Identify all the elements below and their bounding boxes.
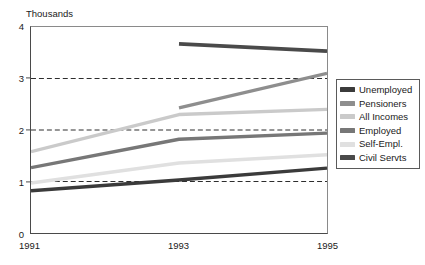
x-tick-label: 1993 [159, 240, 199, 251]
legend-swatch-icon [340, 87, 355, 92]
chart-legend: UnemployedPensionersAll IncomesEmployedS… [336, 79, 420, 169]
y-tick-label: 3 [10, 72, 24, 83]
plot-area [30, 26, 328, 234]
series-line [31, 168, 327, 191]
legend-item[interactable]: Employed [340, 124, 416, 138]
legend-item[interactable]: All Incomes [340, 110, 416, 124]
legend-swatch-icon [340, 142, 355, 147]
legend-item-label: Self-Empl. [359, 139, 403, 149]
x-tick-label: 1995 [308, 240, 348, 251]
series-line [179, 43, 327, 50]
legend-item-label: Unemployed [359, 85, 412, 95]
legend-swatch-icon [340, 128, 355, 133]
legend-item[interactable]: Civil Servts [340, 151, 416, 165]
series-canvas [31, 27, 327, 233]
legend-item-label: All Incomes [359, 112, 408, 122]
legend-item[interactable]: Self-Empl. [340, 137, 416, 151]
legend-swatch-icon [340, 114, 355, 119]
y-tick-label: 4 [10, 20, 24, 31]
y-tick-label: 2 [10, 124, 24, 135]
y-axis-title: Thousands [26, 8, 73, 19]
legend-item[interactable]: Unemployed [340, 83, 416, 97]
plot-inner [31, 27, 327, 233]
legend-swatch-icon [340, 101, 355, 106]
legend-item[interactable]: Pensioners [340, 97, 416, 111]
y-tick-label: 1 [10, 176, 24, 187]
legend-swatch-icon [340, 155, 355, 160]
legend-item-label: Pensioners [359, 99, 407, 109]
legend-item-label: Civil Servts [359, 153, 407, 163]
chart-figure: Thousands 01234 199119931995 UnemployedP… [0, 0, 425, 265]
legend-item-label: Employed [359, 126, 401, 136]
y-tick-label: 0 [10, 228, 24, 239]
x-tick-label: 1991 [10, 240, 50, 251]
series-line [31, 109, 327, 151]
